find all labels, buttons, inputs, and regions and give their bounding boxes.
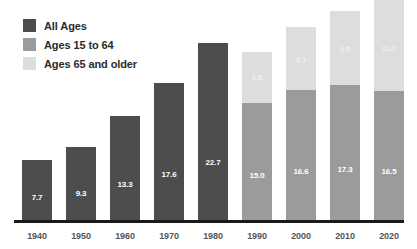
- bar-value-label: 17.6: [154, 171, 184, 179]
- legend-item-ages-15-to-64: Ages 15 to 64: [23, 36, 137, 53]
- bar-segment-ages-15-to-64: 16.6: [286, 90, 316, 220]
- legend-label: Ages 65 and older: [44, 58, 137, 70]
- x-tick-1990: 1990: [237, 231, 277, 241]
- bar-value-label: 13.3: [110, 181, 140, 189]
- bar-2000: 8.1 16.6: [286, 27, 316, 220]
- x-tick-2010: 2010: [325, 231, 365, 241]
- x-tick-1950: 1950: [61, 231, 101, 241]
- bar-value-label: 22.7: [198, 159, 228, 167]
- axis-baseline: [14, 220, 404, 223]
- legend-swatch-icon: [23, 38, 36, 51]
- bar-segment-all-ages: 9.3: [66, 147, 96, 220]
- bar-segment-all-ages: 17.6: [154, 83, 184, 220]
- x-tick-1980: 1980: [193, 231, 233, 241]
- x-tick-1960: 1960: [105, 231, 145, 241]
- x-tick-2000: 2000: [281, 231, 321, 241]
- legend-label: All Ages: [44, 20, 87, 32]
- bar-2020: 11.7 16.5: [374, 0, 404, 220]
- bar-1950: 9.3: [66, 147, 96, 220]
- legend-item-all-ages: All Ages: [23, 17, 137, 34]
- legend-swatch-icon: [23, 19, 36, 32]
- bar-value-label: 17.3: [330, 166, 360, 174]
- bar-1940: 7.7: [22, 160, 52, 220]
- bar-segment-ages-15-to-64: 15.0: [242, 103, 272, 220]
- bar-1970: 17.6: [154, 83, 184, 220]
- bar-1980: 22.7: [198, 43, 228, 220]
- x-tick-2020: 2020: [369, 231, 409, 241]
- bar-value-label: 15.0: [242, 172, 272, 180]
- bar-segment-ages-15-to-64: 16.5: [374, 91, 404, 220]
- chart-legend: All Ages Ages 15 to 64 Ages 65 and older: [23, 17, 137, 74]
- bar-segment-ages-65-and-older: 8.1: [286, 27, 316, 90]
- bar-value-label: 7.7: [22, 194, 52, 202]
- bar-2010: 9.5 17.3: [330, 11, 360, 220]
- bar-segment-all-ages: 22.7: [198, 43, 228, 220]
- bar-value-label: 16.5: [374, 168, 404, 176]
- bar-value-label: 8.1: [286, 56, 316, 64]
- bar-chart: All Ages Ages 15 to 64 Ages 65 and older…: [0, 0, 417, 249]
- bar-value-label: 9.5: [330, 46, 360, 54]
- legend-item-ages-65-and-older: Ages 65 and older: [23, 55, 137, 72]
- x-tick-1940: 1940: [17, 231, 57, 241]
- bar-segment-ages-65-and-older: 6.5: [242, 52, 272, 103]
- legend-label: Ages 15 to 64: [44, 39, 114, 51]
- bar-value-label: 16.6: [286, 168, 316, 176]
- bar-segment-all-ages: 13.3: [110, 116, 140, 220]
- legend-swatch-icon: [23, 57, 36, 70]
- bar-1990: 6.5 15.0: [242, 52, 272, 220]
- bar-1960: 13.3: [110, 116, 140, 220]
- bar-segment-ages-65-and-older: 9.5: [330, 11, 360, 85]
- bar-segment-ages-15-to-64: 17.3: [330, 85, 360, 220]
- bar-value-label: 6.5: [242, 74, 272, 82]
- x-tick-1970: 1970: [149, 231, 189, 241]
- bar-value-label: 9.3: [66, 190, 96, 198]
- bar-segment-ages-65-and-older: 11.7: [374, 0, 404, 91]
- bar-value-label: 11.7: [374, 45, 404, 53]
- bar-segment-all-ages: 7.7: [22, 160, 52, 220]
